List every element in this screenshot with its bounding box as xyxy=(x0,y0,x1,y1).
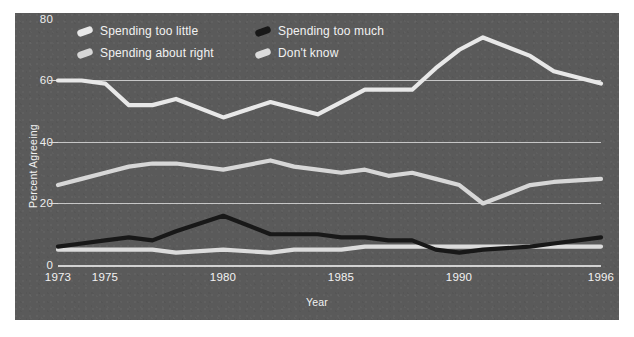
y-tick-mark-20 xyxy=(49,203,58,204)
x-tick-label-1980: 1980 xyxy=(193,272,253,284)
x-tick-label-1985: 1985 xyxy=(311,272,371,284)
series-line-spending-about-right xyxy=(58,160,601,203)
series-line-spending-too-little xyxy=(58,37,601,117)
series-line-spending-too-much xyxy=(58,216,601,253)
x-tick-label-1990: 1990 xyxy=(429,272,489,284)
plot-area xyxy=(58,19,601,265)
chart-screenshot: Spending too little Spending too much Sp… xyxy=(0,0,634,337)
chart-panel: Spending too little Spending too much Sp… xyxy=(15,13,619,320)
x-axis-title: Year xyxy=(15,296,619,308)
y-tick-mark-40 xyxy=(49,142,58,143)
series-lines xyxy=(58,19,601,269)
x-tick-label-1996: 1996 xyxy=(571,272,619,284)
y-tick-label-0: 0 xyxy=(23,260,53,272)
x-tick-label-1975: 1975 xyxy=(75,272,135,284)
y-tick-label-80: 80 xyxy=(23,14,53,26)
